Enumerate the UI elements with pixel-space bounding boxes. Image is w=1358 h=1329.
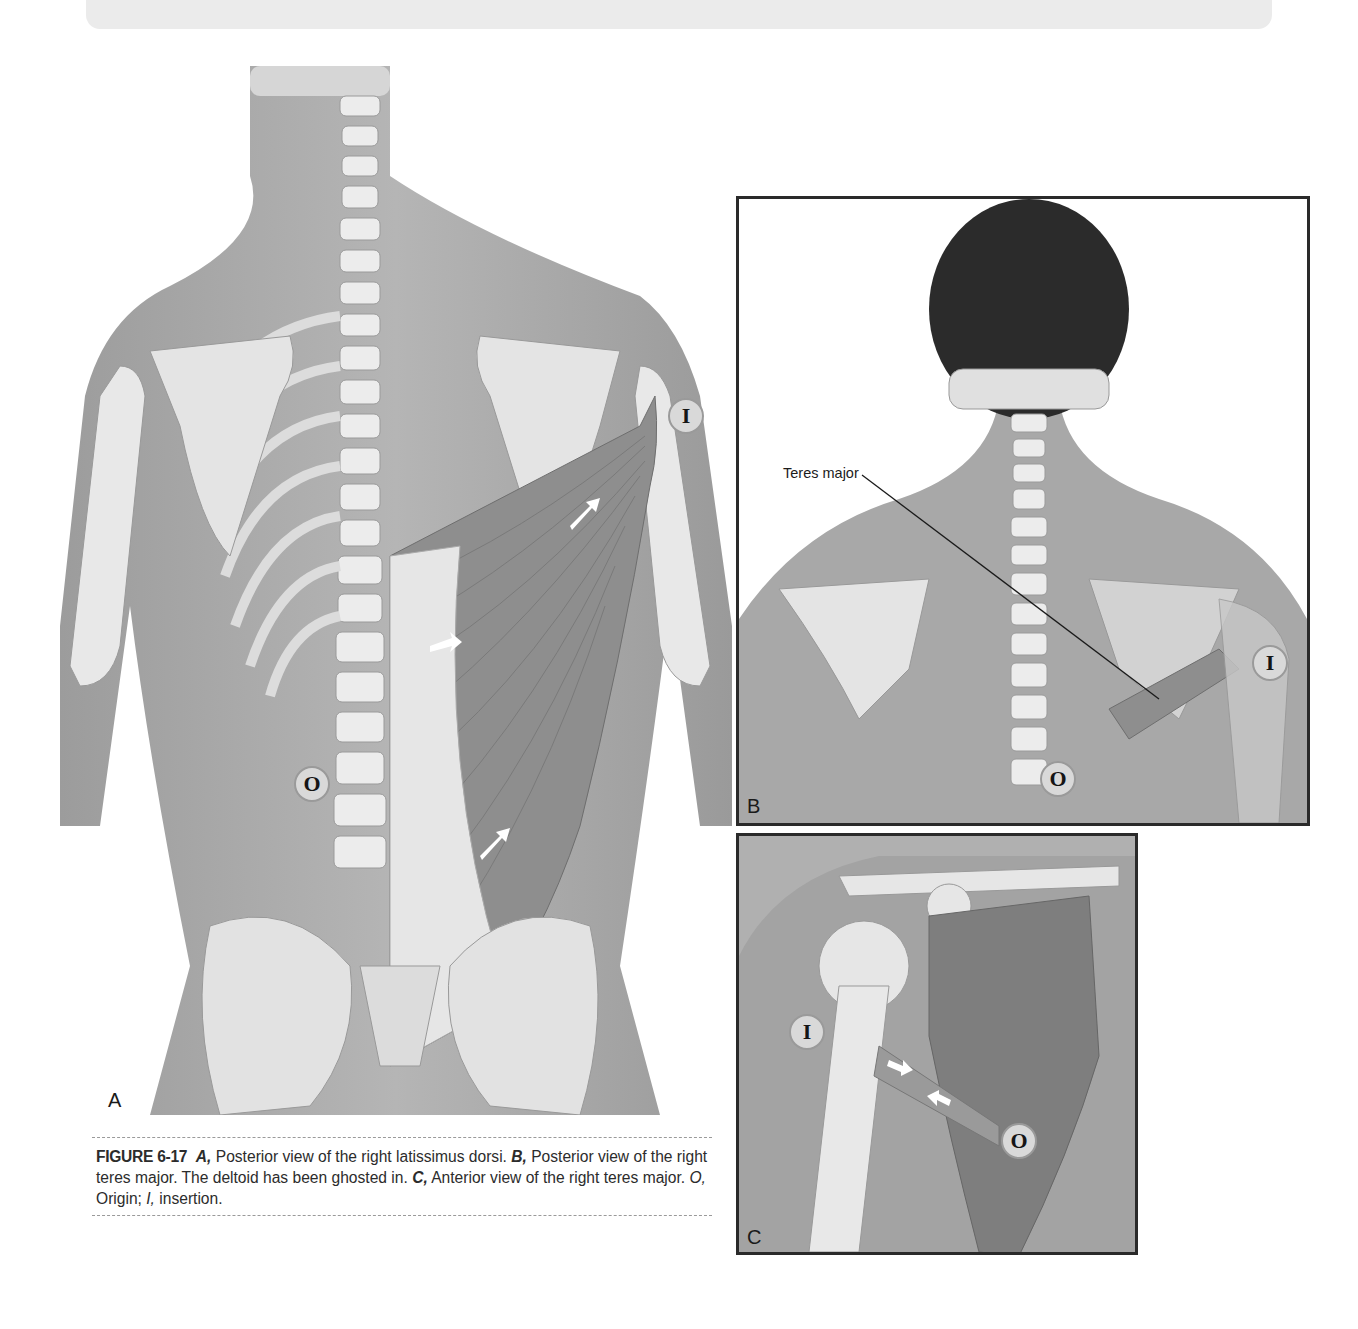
caption-o-abbr: O, — [689, 1169, 705, 1186]
origin-marker: O — [1040, 761, 1076, 797]
caption-i-abbr: I, — [146, 1190, 155, 1207]
panel-a-illustration: O I A — [60, 66, 732, 1115]
caption-c-letter: C, — [412, 1169, 428, 1186]
caption-b-letter: B, — [511, 1148, 527, 1165]
caption-text: FIGURE 6-17 A, Posterior view of the rig… — [92, 1138, 712, 1215]
latissimus-dorsi-illustration — [60, 66, 732, 1115]
panel-b-letter: B — [747, 795, 760, 818]
caption-o-text: Origin; — [96, 1190, 146, 1207]
top-banner — [86, 0, 1272, 29]
caption-c-text: Anterior view of the right teres major. — [428, 1169, 690, 1186]
caption-i-text: insertion. — [155, 1190, 223, 1207]
panel-c-letter: C — [747, 1226, 761, 1249]
caption-a-letter: A, — [196, 1148, 212, 1165]
caption-a-text: Posterior view of the right latissimus d… — [211, 1148, 511, 1165]
panel-a-letter: A — [108, 1089, 121, 1112]
origin-marker: O — [1001, 1123, 1037, 1159]
panel-b-illustration: Teres major O I B — [736, 196, 1310, 826]
origin-marker: O — [294, 766, 330, 802]
teres-major-posterior-illustration — [739, 199, 1307, 823]
figure-number: FIGURE 6-17 — [96, 1148, 187, 1165]
panel-c-illustration: I O C — [736, 833, 1138, 1255]
insertion-marker: I — [668, 398, 704, 434]
figure-caption: FIGURE 6-17 A, Posterior view of the rig… — [92, 1137, 712, 1216]
caption-bottom-rule — [92, 1215, 712, 1216]
insertion-marker: I — [789, 1014, 825, 1050]
teres-major-label: Teres major — [783, 465, 859, 481]
insertion-marker: I — [1252, 645, 1288, 681]
